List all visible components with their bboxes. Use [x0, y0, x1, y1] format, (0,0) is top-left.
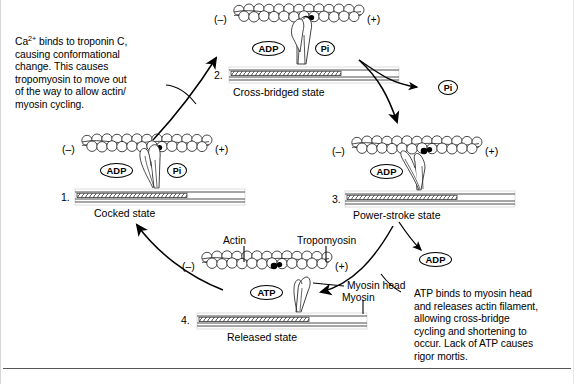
state-4-plus-end-label: (+)	[335, 260, 348, 272]
label-actin: Actin	[223, 235, 246, 247]
left-explanatory-note: Ca2+ binds to troponin C, causing confor…	[15, 36, 175, 112]
left-note-line-4: tropomyosin to move out	[15, 74, 127, 85]
state-2-pi-molecule: Pi	[315, 41, 335, 56]
state-4-number: 4.	[181, 314, 190, 326]
state-2-number: 2.	[214, 69, 223, 81]
label-tropomyosin: Tropomyosin	[297, 235, 356, 247]
state-1-minus-end-label: (–)	[62, 143, 75, 155]
right-note-line-2: and releases actin filament,	[414, 301, 538, 312]
diagram-canvas: Ca2+ binds to troponin C, causing confor…	[0, 0, 574, 384]
state-4-name-label: Released state	[227, 331, 297, 343]
right-note-line-3: allowing cross-bridge	[414, 313, 510, 324]
state-3-adp-molecule: ADP	[370, 164, 403, 179]
state-2-minus-end-label: (–)	[214, 13, 227, 25]
right-note-line-5: occur. Lack of ATP causes	[414, 338, 533, 349]
right-note-line-1: ATP binds to myosin head	[414, 288, 532, 299]
label-myosin-head: Myosin head	[347, 280, 405, 292]
state-4-minus-end-label: (–)	[182, 260, 195, 272]
state-3-number: 3.	[332, 193, 341, 205]
state-1-number: 1.	[61, 191, 70, 203]
state-2-adp-molecule: ADP	[252, 41, 285, 56]
released-adp-molecule: ADP	[419, 252, 452, 267]
left-note-line-6: myosin cycling.	[15, 99, 84, 110]
state-4-atp-molecule: ATP	[250, 285, 283, 300]
left-note-line-1: Ca2+ binds to troponin C,	[15, 36, 127, 47]
label-myosin: Myosin	[342, 292, 375, 304]
state-1-name-label: Cocked state	[94, 207, 155, 219]
bottom-divider	[3, 368, 571, 369]
right-explanatory-note: ATP binds to myosin head and releases ac…	[414, 288, 574, 364]
state-3-plus-end-label: (+)	[485, 145, 498, 157]
state-1-pi-molecule: Pi	[167, 163, 187, 178]
arrow-to-adp-released	[399, 222, 421, 250]
state-3-name-label: Power-stroke state	[353, 209, 441, 221]
state-1-adp-molecule: ADP	[100, 163, 133, 178]
left-note-line-2: causing conformational	[15, 49, 120, 60]
right-note-line-6: rigor mortis.	[414, 351, 468, 362]
released-pi-molecule: Pi	[438, 80, 458, 95]
state-2-name-label: Cross-bridged state	[233, 86, 325, 98]
state-1-plus-end-label: (+)	[215, 143, 228, 155]
left-note-line-3: change. This causes	[15, 61, 108, 72]
left-note-line-5: of the way to allow actin/	[15, 86, 126, 97]
state-3-minus-end-label: (–)	[332, 145, 345, 157]
right-note-line-4: cycling and shortening to	[414, 326, 527, 337]
state-2-plus-end-label: (+)	[367, 13, 380, 25]
superscript-charge: 2+	[28, 34, 36, 43]
